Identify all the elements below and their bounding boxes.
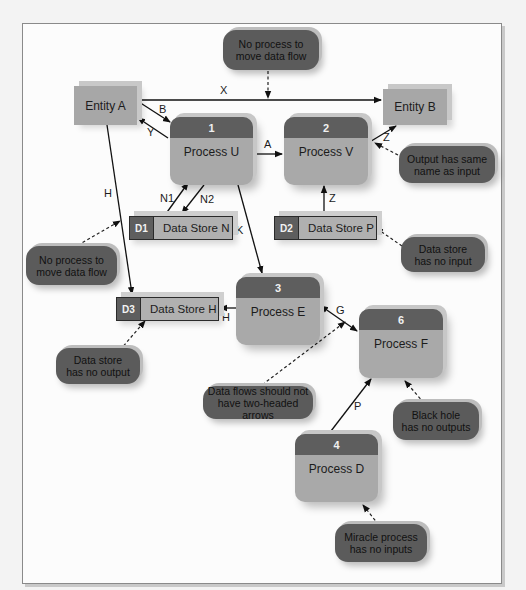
callout-line: have two-headed arrows [218, 397, 299, 421]
process-u[interactable]: 1 Process U [170, 117, 253, 185]
callout-line: Output has same [407, 153, 487, 165]
entity-b[interactable]: Entity B [383, 89, 447, 125]
process-v-number: 2 [284, 117, 368, 138]
flow-label-h-entity: H [104, 187, 112, 199]
process-v-label: Process V [284, 138, 368, 159]
flow-label-k: K [236, 224, 243, 236]
flow-label-x: X [220, 84, 227, 96]
process-f-label: Process F [359, 330, 443, 351]
callout-line: Data flows should not [208, 385, 308, 397]
flow-label-n1: N1 [160, 192, 174, 204]
data-store-n-code: D1 [130, 217, 154, 239]
entity-a[interactable]: Entity A [74, 86, 137, 125]
callout-two-headed-arrows: Data flows should nothave two-headed arr… [203, 386, 313, 419]
callout-store-no-input: Data storehas no input [401, 237, 485, 272]
callout-line: has no input [414, 255, 471, 267]
flow-label-a: A [264, 138, 271, 150]
flow-label-h-process: H [222, 311, 230, 323]
flow-label-g: G [336, 304, 345, 316]
callout-top-no-process: No process tomove data flow [223, 30, 319, 70]
callout-line: No process to [239, 38, 304, 50]
flow-label-n2: N2 [200, 193, 214, 205]
flow-label-z-store: Z [329, 192, 336, 204]
callout-line: has no outputs [402, 421, 471, 433]
callout-output-same-name: Output has samename as input [399, 146, 495, 183]
callout-store-no-output: Data storehas no output [56, 348, 140, 384]
process-u-label: Process U [170, 138, 253, 159]
process-d-label: Process D [295, 455, 378, 476]
process-e[interactable]: 3 Process E [236, 277, 320, 345]
data-store-n[interactable]: D1 Data Store N [129, 216, 233, 240]
callout-line: has no output [66, 366, 130, 378]
callout-miracle-process: Miracle processhas no inputs [335, 524, 427, 562]
callout-line: name as input [414, 165, 480, 177]
flow-label-p: P [354, 400, 361, 412]
callout-line: Miracle process [344, 531, 418, 543]
data-store-h[interactable]: D3 Data Store H [116, 297, 219, 321]
callout-line: Data store [74, 354, 122, 366]
callout-line: move data flow [36, 266, 107, 278]
data-store-p-code: D2 [275, 217, 299, 239]
callout-line: has no inputs [350, 543, 412, 555]
process-d-number: 4 [295, 434, 378, 455]
data-store-h-code: D3 [117, 298, 141, 320]
process-f[interactable]: 6 Process F [359, 309, 443, 378]
process-v[interactable]: 2 Process V [284, 117, 368, 185]
flow-label-b: B [159, 103, 166, 115]
process-u-number: 1 [170, 117, 253, 138]
process-f-number: 6 [359, 309, 443, 330]
process-e-label: Process E [236, 298, 320, 319]
entity-b-label: Entity B [394, 100, 435, 114]
process-d[interactable]: 4 Process D [295, 434, 378, 502]
callout-black-hole: Black holehas no outputs [393, 402, 479, 440]
process-e-number: 3 [236, 277, 320, 298]
data-store-h-label: Data Store H [141, 298, 218, 320]
callout-line: move data flow [236, 50, 307, 62]
callout-line: Black hole [412, 409, 460, 421]
data-store-p-label: Data Store P [299, 217, 376, 239]
callout-line: Data store [419, 243, 467, 255]
callout-line: No process to [39, 254, 104, 266]
entity-a-label: Entity A [85, 99, 126, 113]
flow-label-z-entity: Z [383, 131, 390, 143]
callout-left-no-process: No process tomove data flow [26, 246, 117, 285]
data-store-n-label: Data Store N [154, 217, 232, 239]
data-store-p[interactable]: D2 Data Store P [274, 216, 377, 240]
flow-label-y: Y [147, 126, 154, 138]
